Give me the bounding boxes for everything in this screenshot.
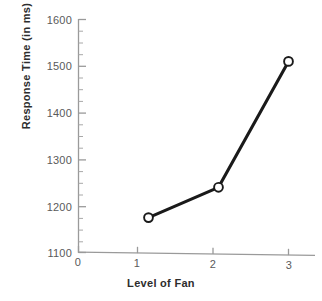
data-point-markers — [144, 57, 293, 222]
y-tick-label-1100: 1100 — [32, 247, 72, 259]
data-point-marker — [214, 183, 223, 192]
y-tick-label-1200: 1200 — [32, 201, 72, 213]
data-point-marker — [284, 57, 293, 66]
y-tick-label-1600: 1600 — [32, 14, 72, 26]
y-tick-label-1300: 1300 — [32, 154, 72, 166]
y-tick-label-1500: 1500 — [32, 60, 72, 72]
data-point-marker — [144, 213, 153, 222]
y-axis-title: Response Time (in ms) — [20, 0, 32, 166]
x-tick-label-2: 2 — [210, 258, 216, 270]
x-tick-label-3: 3 — [286, 259, 292, 271]
x-axis-title: Level of Fan — [0, 277, 322, 289]
y-axis-minor-ticks — [79, 31, 84, 242]
data-series-line — [149, 61, 289, 217]
chart-figure: 1600 1500 1400 1300 1200 1100 0 1 2 3 Le… — [0, 0, 322, 301]
x-tick-label-1: 1 — [134, 257, 140, 269]
x-tick-label-0: 0 — [75, 256, 81, 268]
x-axis-line — [78, 252, 315, 255]
y-tick-label-1400: 1400 — [32, 107, 72, 119]
